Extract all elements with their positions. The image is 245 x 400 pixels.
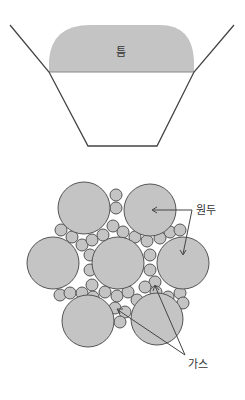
gas-label: 가스 bbox=[188, 358, 208, 371]
diagram-canvas: 틈 bbox=[0, 0, 245, 400]
bean-diagram bbox=[27, 182, 209, 347]
cap-label: 틈 bbox=[116, 46, 126, 59]
vessel-diagram: 틈 bbox=[10, 25, 234, 146]
bean-label: 원두 bbox=[196, 204, 216, 217]
